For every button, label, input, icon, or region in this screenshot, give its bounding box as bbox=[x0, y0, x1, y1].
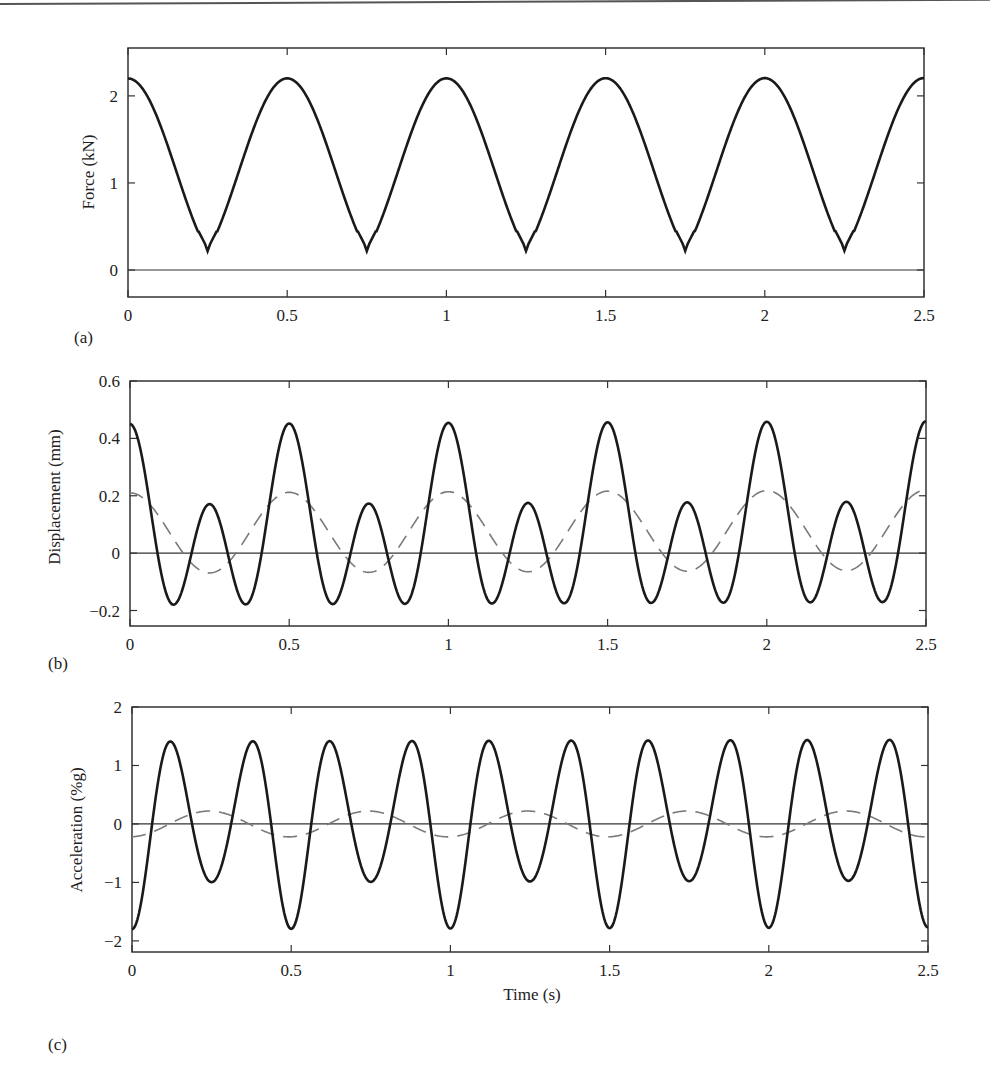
x-tick-label: 2.5 bbox=[917, 961, 938, 980]
force-plot-frame bbox=[128, 48, 924, 297]
y-tick-label: 0 bbox=[110, 261, 119, 280]
x-tick-label: 1 bbox=[446, 961, 455, 980]
x-tick-label: 2 bbox=[761, 306, 770, 325]
y-tick-label: 2 bbox=[114, 698, 123, 717]
y-tick-label: 1 bbox=[114, 756, 123, 775]
acceleration-x-ticks: 00.511.522.5 bbox=[128, 707, 939, 980]
panel-label-c: (c) bbox=[48, 1035, 67, 1054]
y-tick-label: 1 bbox=[110, 174, 119, 193]
x-tick-label: 1.5 bbox=[599, 961, 620, 980]
y-tick-label: 0.2 bbox=[99, 487, 120, 506]
x-tick-label: 2.5 bbox=[913, 306, 934, 325]
x-tick-label: 2.5 bbox=[915, 635, 936, 654]
displacement-chart: −0.200.20.40.6 00.511.522.5 Displacement… bbox=[45, 372, 937, 673]
x-tick-label: 0.5 bbox=[281, 961, 302, 980]
x-tick-label: 0 bbox=[126, 635, 135, 654]
y-tick-label: 0 bbox=[112, 544, 121, 563]
y-tick-label: 0 bbox=[114, 815, 123, 834]
y-tick-label: 0.6 bbox=[99, 372, 120, 391]
force-chart: 012 00.511.522.5 Force (kN) (a) bbox=[74, 48, 935, 347]
acceleration-y-axis-label: Acceleration (%g) bbox=[67, 767, 86, 892]
y-tick-label: 0.4 bbox=[99, 429, 121, 448]
x-tick-label: 1 bbox=[444, 635, 453, 654]
figure: 012 00.511.522.5 Force (kN) (a) −0.200.2… bbox=[0, 0, 990, 1066]
x-tick-label: 2 bbox=[765, 961, 774, 980]
x-tick-label: 0.5 bbox=[279, 635, 300, 654]
displacement-solid-line bbox=[130, 421, 926, 605]
acceleration-chart: −2−1012 00.511.522.5 Acceleration (%g) T… bbox=[48, 698, 939, 1054]
x-tick-label: 1 bbox=[442, 306, 451, 325]
x-tick-label: 0 bbox=[124, 306, 133, 325]
x-tick-label: 2 bbox=[763, 635, 772, 654]
panel-label-b: (b) bbox=[48, 654, 68, 673]
acceleration-plot-frame bbox=[132, 707, 928, 952]
force-line bbox=[128, 78, 924, 251]
y-tick-label: −2 bbox=[104, 932, 122, 951]
panel-label-a: (a) bbox=[74, 328, 93, 347]
x-tick-label: 0 bbox=[128, 961, 137, 980]
acceleration-solid-line bbox=[132, 740, 928, 929]
displacement-x-ticks: 00.511.522.5 bbox=[126, 381, 937, 654]
y-tick-label: 2 bbox=[110, 87, 119, 106]
x-tick-label: 0.5 bbox=[277, 306, 298, 325]
force-y-ticks: 012 bbox=[110, 87, 925, 280]
x-tick-label: 1.5 bbox=[597, 635, 618, 654]
x-tick-label: 1.5 bbox=[595, 306, 616, 325]
y-tick-label: −0.2 bbox=[89, 602, 120, 621]
force-y-axis-label: Force (kN) bbox=[79, 134, 98, 209]
force-x-ticks: 00.511.522.5 bbox=[124, 48, 935, 325]
time-x-axis-label: Time (s) bbox=[503, 985, 560, 1004]
y-tick-label: −1 bbox=[104, 873, 122, 892]
displacement-y-axis-label: Displacement (mm) bbox=[45, 429, 64, 565]
